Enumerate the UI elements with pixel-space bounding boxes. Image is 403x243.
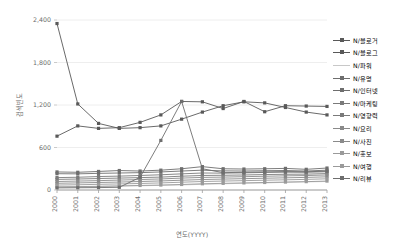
- legend-swatch-icon: [333, 99, 350, 107]
- series-marker: [201, 100, 204, 103]
- y-tick-label: 0: [47, 186, 51, 193]
- legend-item[interactable]: N/블로거: [333, 34, 378, 47]
- legend-swatch-icon: [333, 61, 350, 69]
- legend-swatch-icon: [333, 124, 350, 132]
- y-tick-label: 1,800: [33, 59, 51, 66]
- y-tick-label: 2,400: [33, 16, 51, 23]
- series-marker: [97, 122, 100, 125]
- legend-swatch-icon: [333, 74, 350, 82]
- x-tick-label: 2010: [259, 196, 266, 212]
- series-marker: [325, 170, 328, 173]
- series-marker: [242, 181, 245, 184]
- series-marker: [305, 104, 308, 107]
- legend-item[interactable]: N/사진: [333, 135, 378, 148]
- series-marker: [138, 126, 141, 129]
- legend-swatch-icon: [333, 87, 350, 95]
- chart-legend: N/블로거N/블로그N/파워N/유명N/인터넷N/마케팅N/영향력N/요리N/사…: [333, 34, 378, 185]
- series-marker: [55, 172, 58, 175]
- series-marker: [159, 124, 162, 127]
- legend-item-label: N/블로거: [353, 36, 378, 45]
- series-marker: [284, 104, 287, 107]
- series-marker: [201, 167, 204, 170]
- legend-swatch-icon: [333, 112, 350, 120]
- legend-swatch-icon: [333, 150, 350, 158]
- series-marker: [242, 100, 245, 103]
- series-marker: [222, 171, 225, 174]
- series-marker: [201, 110, 204, 113]
- series-marker: [263, 181, 266, 184]
- series-marker: [222, 182, 225, 185]
- x-tick-label: 2012: [300, 196, 307, 212]
- series-marker: [201, 182, 204, 185]
- series-marker: [263, 110, 266, 113]
- legend-item[interactable]: N/마케팅: [333, 97, 378, 110]
- series-marker: [55, 22, 58, 25]
- series-marker: [263, 101, 266, 104]
- series-marker: [159, 183, 162, 186]
- series-marker: [97, 186, 100, 189]
- legend-item-label: N/영향력: [353, 111, 378, 120]
- series-marker: [180, 100, 183, 103]
- series-marker: [76, 102, 79, 105]
- legend-item-label: N/요리: [353, 124, 372, 133]
- legend-item[interactable]: N/영향력: [333, 110, 378, 123]
- series-marker: [97, 127, 100, 130]
- legend-item-label: N/마케팅: [353, 99, 378, 108]
- x-tick-label: 2002: [93, 196, 100, 212]
- legend-swatch-icon: [333, 36, 350, 44]
- series-marker: [159, 139, 162, 142]
- legend-item-label: N/홍보: [353, 149, 372, 158]
- legend-swatch-icon: [333, 49, 350, 57]
- legend-item[interactable]: N/여행: [333, 160, 378, 173]
- legend-item[interactable]: N/파워: [333, 59, 378, 72]
- y-tick-label: 1,200: [33, 101, 51, 108]
- legend-item[interactable]: N/인터넷: [333, 84, 378, 97]
- series-marker: [118, 171, 121, 174]
- series-marker: [325, 105, 328, 108]
- x-tick-label: 2007: [196, 196, 203, 212]
- series-marker: [222, 104, 225, 107]
- x-axis-title: 연도(YYYY): [176, 231, 208, 238]
- series-marker: [138, 121, 141, 124]
- series-marker: [138, 176, 141, 179]
- legend-item[interactable]: N/요리: [333, 122, 378, 135]
- legend-item[interactable]: N/홍보: [333, 147, 378, 160]
- series-marker: [76, 186, 79, 189]
- series-marker: [180, 118, 183, 121]
- y-axis-title: 검색빈도: [15, 93, 24, 117]
- series-marker: [138, 184, 141, 187]
- series-marker: [305, 180, 308, 183]
- series-marker: [55, 186, 58, 189]
- series-marker: [118, 126, 121, 129]
- x-tick-label: 2009: [238, 196, 245, 212]
- series-marker: [180, 183, 183, 186]
- x-tick-label: 2004: [134, 196, 141, 212]
- series-marker: [180, 169, 183, 172]
- legend-swatch-icon: [333, 137, 350, 145]
- series-marker: [138, 171, 141, 174]
- legend-item[interactable]: N/유명: [333, 72, 378, 85]
- line-chart: 06001,2001,8002,400200020012002200320042…: [0, 0, 403, 243]
- x-tick-label: 2000: [51, 196, 58, 212]
- series-marker: [159, 170, 162, 173]
- series-marker: [118, 186, 121, 189]
- series-marker: [325, 113, 328, 116]
- legend-item[interactable]: N/블로그: [333, 47, 378, 60]
- series-marker: [242, 171, 245, 174]
- legend-item-label: N/리뷰: [353, 174, 372, 183]
- legend-item-label: N/여행: [353, 162, 372, 171]
- y-tick-label: 600: [39, 144, 51, 151]
- series-marker: [222, 107, 225, 110]
- x-tick-label: 2001: [72, 196, 79, 212]
- legend-item-label: N/사진: [353, 137, 372, 146]
- series-marker: [55, 135, 58, 138]
- series-marker: [284, 170, 287, 173]
- legend-item-label: N/인터넷: [353, 86, 378, 95]
- series-marker: [305, 110, 308, 113]
- legend-item-label: N/유명: [353, 74, 372, 83]
- series-marker: [305, 170, 308, 173]
- series-marker: [97, 172, 100, 175]
- legend-item[interactable]: N/리뷰: [333, 173, 378, 186]
- x-tick-label: 2013: [321, 196, 328, 212]
- x-tick-label: 2006: [176, 196, 183, 212]
